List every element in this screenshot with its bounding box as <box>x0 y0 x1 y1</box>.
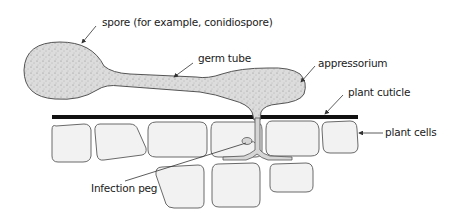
plant-cuticle-arrow <box>325 95 343 114</box>
label-appressorium: appressorium <box>318 57 387 69</box>
plant-cell <box>148 122 207 157</box>
plant-cell <box>266 121 319 156</box>
label-spore: spore (for example, conidiospore) <box>102 16 273 28</box>
label-germ-tube: germ tube <box>198 52 251 64</box>
plant-cell <box>52 124 91 162</box>
plant-cuticle-layer <box>52 115 358 119</box>
label-plant-cuticle: plant cuticle <box>348 86 410 98</box>
plant-cell <box>212 163 260 207</box>
germ-tube-arrow <box>174 63 193 77</box>
label-plant-cells: plant cells <box>385 126 436 138</box>
plant-cell <box>322 121 358 153</box>
plant-cell <box>95 124 146 160</box>
diagram-graphic <box>0 0 450 216</box>
appressorium-arrow <box>301 66 315 82</box>
plant-cell <box>156 165 204 208</box>
spore-arrow <box>82 26 96 43</box>
plant-cell <box>270 163 313 192</box>
fungus-body <box>24 42 305 120</box>
fungal-infection-diagram: spore (for example, conidiospore) germ t… <box>0 0 450 216</box>
plant-cells <box>52 121 358 208</box>
label-infection-peg: Infection peg <box>91 182 157 194</box>
